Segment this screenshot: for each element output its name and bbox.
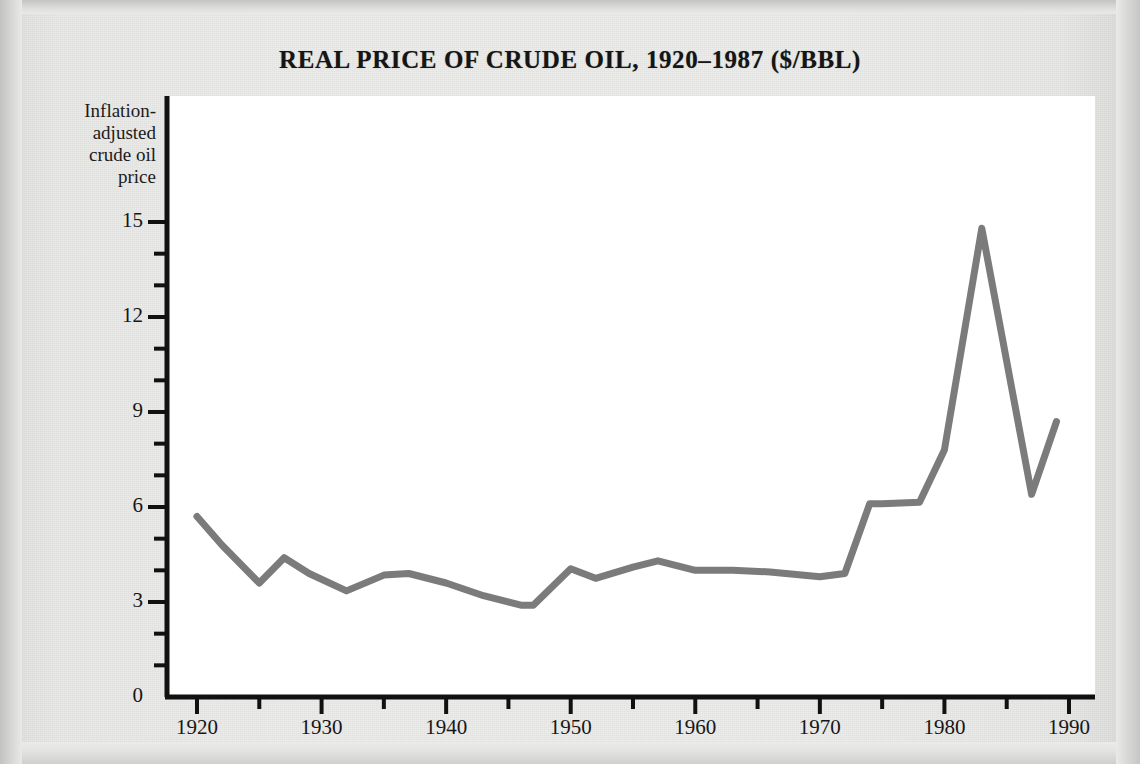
x-axis-minor-ticks — [259, 699, 1006, 709]
y-axis-tick-label: 9 — [103, 398, 143, 423]
y-axis-major-ticks — [148, 222, 165, 602]
x-axis-tick-label: 1960 — [655, 715, 735, 740]
price-line-series — [197, 228, 1057, 605]
y-axis-tick-label: 12 — [103, 303, 143, 328]
y-axis-tick-label: 15 — [103, 208, 143, 233]
y-axis-tick-label: 3 — [103, 588, 143, 613]
x-axis-tick-label: 1920 — [157, 715, 237, 740]
x-axis-tick-label: 1990 — [1029, 715, 1109, 740]
x-axis-tick-label: 1950 — [531, 715, 611, 740]
chart-figure: REAL PRICE OF CRUDE OIL, 1920–1987 ($/BB… — [0, 0, 1140, 764]
x-axis-tick-label: 1980 — [904, 715, 984, 740]
x-axis-tick-label: 1970 — [780, 715, 860, 740]
y-axis-tick-label: 6 — [103, 493, 143, 518]
chart-canvas — [0, 0, 1140, 764]
x-axis-tick-label: 1940 — [406, 715, 486, 740]
x-axis-tick-label: 1930 — [282, 715, 362, 740]
y-axis-tick-label: 0 — [103, 683, 143, 708]
